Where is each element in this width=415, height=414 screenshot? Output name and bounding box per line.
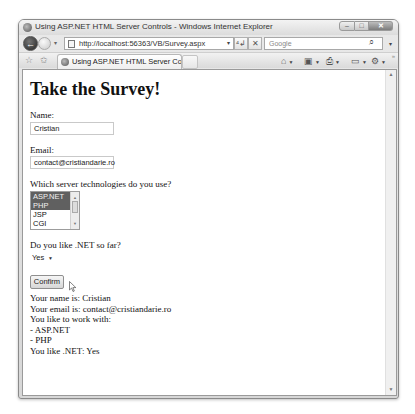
search-input[interactable]: Google bbox=[264, 37, 383, 50]
email-input[interactable]: contact@cristiandarie.ro bbox=[30, 156, 114, 169]
back-button[interactable]: ← bbox=[23, 36, 38, 51]
tab-bar: ☆ ✩ Using ASP.NET HTML Server Controls ⌂… bbox=[19, 52, 398, 68]
scroll-down-icon[interactable]: ▼ bbox=[71, 219, 79, 228]
chevron-down-icon: ▼ bbox=[362, 59, 367, 65]
maximize-button[interactable]: □ bbox=[355, 21, 369, 31]
tools-gear-icon: ⚙ bbox=[371, 56, 379, 66]
likes-net-select[interactable]: Yes ▼ bbox=[30, 252, 55, 264]
tab-page-icon bbox=[61, 58, 69, 66]
feeds-button[interactable]: ▣▼ bbox=[304, 55, 320, 68]
option-jsp[interactable]: JSP bbox=[31, 210, 71, 219]
chevron-down-icon: ▼ bbox=[335, 59, 340, 65]
option-cgi[interactable]: CGI bbox=[31, 219, 71, 228]
home-icon: ⌂ bbox=[281, 56, 286, 66]
window-title: Using ASP.NET HTML Server Controls - Win… bbox=[35, 22, 273, 31]
page-menu-button[interactable]: ▭▼ bbox=[351, 55, 367, 68]
page-icon bbox=[68, 40, 75, 48]
option-php[interactable]: PHP bbox=[31, 201, 71, 210]
result-name: Your name is: Cristian bbox=[30, 293, 171, 304]
name-input[interactable]: Cristian bbox=[30, 122, 114, 135]
listbox-scrollbar[interactable]: ▲ ▼ bbox=[70, 192, 79, 229]
confirm-button[interactable]: Confirm bbox=[30, 275, 64, 289]
tools-menu-button[interactable]: ⚙▼ bbox=[371, 55, 386, 68]
technologies-label: Which server technologies do you use? bbox=[30, 179, 171, 190]
results-panel: Your name is: Cristian Your email is: co… bbox=[30, 293, 171, 356]
close-button[interactable]: ✕ bbox=[369, 21, 393, 31]
refresh-button[interactable]: ⁴↲ bbox=[234, 37, 248, 50]
minimize-button[interactable]: – bbox=[339, 21, 355, 31]
tab-label: Using ASP.NET HTML Server Controls bbox=[72, 57, 182, 66]
option-aspnet[interactable]: ASP.NET bbox=[31, 192, 71, 201]
page-title: Take the Survey! bbox=[30, 78, 171, 100]
address-bar[interactable]: http://localhost:56363/VB/Survey.aspx ▾ bbox=[64, 37, 234, 50]
email-label: Email: bbox=[30, 145, 171, 156]
chevron-down-icon: ▼ bbox=[288, 59, 293, 65]
result-work-with: You like to work with: bbox=[30, 314, 171, 325]
page-menu-icon: ▭ bbox=[351, 56, 360, 66]
survey-form: Take the Survey! Name: Cristian Email: c… bbox=[30, 76, 171, 356]
browser-window: Using ASP.NET HTML Server Controls - Win… bbox=[18, 19, 399, 399]
home-button[interactable]: ⌂▼ bbox=[281, 55, 293, 68]
likes-net-label: Do you like .NET so far? bbox=[30, 240, 171, 251]
technologies-listbox[interactable]: ASP.NET PHP JSP CGI ▲ ▼ bbox=[30, 191, 80, 230]
chevron-down-icon: ▼ bbox=[381, 59, 386, 65]
page-scrollbar[interactable]: ▲ ▼ bbox=[385, 70, 396, 395]
feeds-icon: ▣ bbox=[304, 56, 313, 66]
ie-logo-icon bbox=[23, 23, 32, 32]
print-button[interactable]: ⎙▼ bbox=[326, 55, 340, 68]
search-options-dropdown-icon[interactable]: ▾ bbox=[389, 40, 392, 47]
chevron-down-icon: ▼ bbox=[315, 59, 320, 65]
mouse-cursor-icon bbox=[69, 281, 77, 292]
title-bar: Using ASP.NET HTML Server Controls - Win… bbox=[19, 20, 398, 35]
scroll-thumb[interactable] bbox=[72, 201, 78, 213]
address-dropdown-icon[interactable]: ▾ bbox=[227, 38, 230, 49]
favorites-star-icon[interactable]: ☆ bbox=[25, 55, 33, 65]
page-content: Take the Survey! Name: Cristian Email: c… bbox=[22, 69, 397, 396]
result-likes-net: You like .NET: Yes bbox=[30, 346, 171, 357]
add-favorites-icon[interactable]: ✩ bbox=[40, 55, 48, 65]
more-commands-icon[interactable]: » bbox=[392, 53, 395, 59]
window-controls: – □ ✕ bbox=[339, 21, 393, 32]
stop-button[interactable]: ✕ bbox=[248, 37, 262, 50]
address-url: http://localhost:56363/VB/Survey.aspx bbox=[79, 39, 205, 48]
result-tech-2: - PHP bbox=[30, 335, 171, 346]
tab-active[interactable]: Using ASP.NET HTML Server Controls bbox=[57, 54, 182, 69]
scroll-down-icon[interactable]: ▼ bbox=[386, 385, 396, 395]
likes-net-value: Yes bbox=[32, 253, 44, 262]
search-icon[interactable]: ⌕ bbox=[369, 37, 374, 48]
name-label: Name: bbox=[30, 110, 171, 121]
result-email: Your email is: contact@cristiandarie.ro bbox=[30, 304, 171, 315]
print-icon: ⎙ bbox=[326, 56, 333, 66]
recent-pages-dropdown-icon[interactable]: ▾ bbox=[54, 39, 57, 46]
chevron-down-icon: ▼ bbox=[48, 252, 53, 264]
result-tech-1: - ASP.NET bbox=[30, 325, 171, 336]
scroll-up-icon[interactable]: ▲ bbox=[386, 70, 396, 80]
navigation-bar: ← ▾ http://localhost:56363/VB/Survey.asp… bbox=[19, 35, 398, 52]
forward-button[interactable] bbox=[38, 37, 51, 50]
new-tab-button[interactable] bbox=[182, 55, 198, 69]
